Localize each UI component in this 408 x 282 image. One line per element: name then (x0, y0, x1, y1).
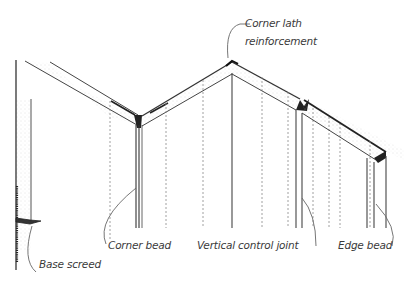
label-control-joint: Vertical control joint (197, 239, 298, 252)
label-edge-bead: Edge bead (338, 239, 392, 252)
leader-lines (28, 24, 393, 272)
corner-lath-peak (226, 61, 238, 228)
label-corner-lath-line1: Corner lath (245, 17, 302, 30)
control-joint-leader (302, 198, 316, 246)
label-corner-bead: Corner bead (108, 239, 171, 252)
right-segment (302, 100, 386, 228)
corner-bead-leader (104, 188, 136, 244)
corner-bead-column (134, 115, 142, 228)
label-base-screed: Base screed (39, 258, 101, 271)
left-end-wall (16, 60, 41, 270)
label-corner-lath-line2: reinforcement (245, 35, 317, 48)
right-wall (232, 62, 404, 228)
plaster-accessories-diagram: Corner lath reinforcement Corner bead Ve… (0, 0, 408, 282)
middle-wall (142, 62, 232, 228)
left-wall (25, 61, 141, 240)
